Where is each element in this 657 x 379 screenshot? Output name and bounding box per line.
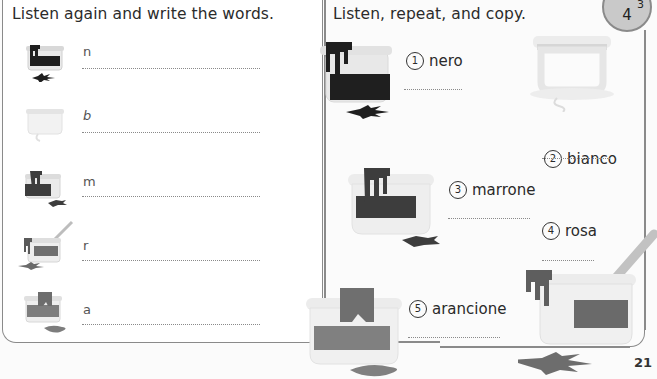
left-instruction-heading: Listen again and write the words. xyxy=(12,5,274,23)
row-2-letter: b xyxy=(83,108,91,123)
word-item-5: 5 arancione xyxy=(409,300,506,318)
row-4-write-line[interactable] xyxy=(82,260,260,261)
row-4-letter: r xyxy=(83,238,88,253)
row-3-letter: m xyxy=(83,174,96,189)
word-marrone: marrone xyxy=(472,181,535,199)
page-number: 21 xyxy=(634,355,652,370)
word-item-1: 1 nero xyxy=(406,52,463,70)
item-1-copy-line[interactable] xyxy=(404,89,462,90)
black-paint-jar-illustration xyxy=(320,38,400,120)
row-3-write-line[interactable] xyxy=(82,196,260,197)
row-1-write-line[interactable] xyxy=(82,68,260,69)
unit-badge: 3 4 xyxy=(602,0,652,32)
brown-paint-jar-illustration xyxy=(344,164,448,250)
brown-paint-jar-icon xyxy=(22,168,74,210)
white-paint-jar-illustration xyxy=(527,30,617,112)
item-5-copy-line[interactable] xyxy=(408,337,500,338)
white-paint-jar-icon xyxy=(24,106,70,146)
right-instruction-heading: Listen, repeat, and copy. xyxy=(333,5,526,23)
item-number-3: 3 xyxy=(449,181,467,199)
item-2-copy-line[interactable] xyxy=(542,158,610,159)
item-number-2: 2 xyxy=(544,150,562,168)
word-item-3: 3 marrone xyxy=(449,181,535,199)
row-2-write-line[interactable] xyxy=(82,132,260,133)
black-paint-jar-icon xyxy=(24,42,70,82)
word-bianco: bianco xyxy=(567,150,617,168)
item-number-1: 1 xyxy=(406,52,424,70)
pink-paint-jar-illustration xyxy=(518,228,657,376)
pink-paint-jar-icon xyxy=(14,220,76,272)
word-nero: nero xyxy=(429,52,463,70)
item-3-copy-line[interactable] xyxy=(448,218,530,219)
word-arancione: arancione xyxy=(432,300,506,318)
row-1-letter: n xyxy=(83,44,91,59)
row-5-write-line[interactable] xyxy=(82,324,260,325)
word-item-2: 2 bianco xyxy=(544,150,617,168)
item-number-5: 5 xyxy=(409,300,427,318)
orange-paint-jar-illustration xyxy=(300,286,410,379)
row-5-letter: a xyxy=(83,302,91,317)
badge-number: 4 xyxy=(604,6,650,24)
orange-paint-jar-icon xyxy=(22,290,74,336)
